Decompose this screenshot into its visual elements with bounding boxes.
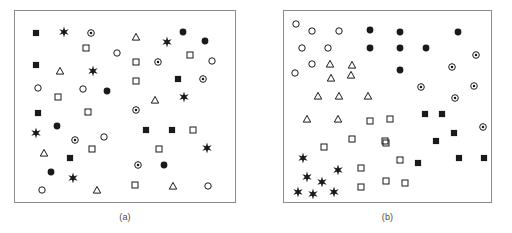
- marker-triangle: [92, 185, 103, 196]
- marker-triangle: [334, 91, 345, 102]
- marker-open-square: [381, 176, 392, 187]
- marker-filled-circle: [200, 36, 211, 47]
- marker-star: [297, 152, 310, 165]
- marker-star: [87, 65, 100, 78]
- marker-open-square: [154, 144, 165, 155]
- marker-filled-circle: [421, 43, 432, 54]
- marker-open-circle: [203, 181, 214, 192]
- marker-filled-square: [479, 153, 490, 164]
- marker-filled-square: [454, 153, 465, 164]
- marker-filled-circle: [395, 65, 406, 76]
- marker-filled-square: [420, 109, 431, 120]
- marker-filled-square: [449, 128, 460, 139]
- panel-caption-b: (b): [283, 212, 492, 222]
- marker-triangle: [333, 114, 344, 125]
- marker-open-square: [395, 155, 406, 166]
- marker-star: [161, 36, 174, 49]
- marker-circled-dot: [86, 28, 97, 39]
- marker-open-square: [87, 144, 98, 155]
- marker-circled-dot: [450, 93, 461, 104]
- marker-open-square: [385, 114, 396, 125]
- marker-circled-dot: [447, 62, 458, 73]
- marker-filled-square: [437, 109, 448, 120]
- marker-filled-square: [31, 60, 42, 71]
- marker-filled-square: [173, 74, 184, 85]
- marker-open-square: [81, 43, 92, 54]
- marker-star: [292, 186, 305, 199]
- marker-open-circle: [307, 26, 318, 37]
- marker-open-square: [356, 182, 367, 193]
- marker-open-square: [83, 107, 94, 118]
- marker-filled-circle: [395, 27, 406, 38]
- marker-filled-circle: [365, 43, 376, 54]
- marker-circled-dot: [131, 105, 142, 116]
- marker-open-circle: [37, 185, 48, 196]
- panel-b: [283, 10, 492, 203]
- marker-filled-square: [413, 158, 424, 169]
- marker-open-square: [356, 163, 367, 174]
- marker-open-circle: [307, 59, 318, 70]
- marker-circled-dot: [471, 50, 482, 61]
- marker-triangle: [326, 73, 337, 84]
- marker-circled-dot: [198, 74, 209, 85]
- marker-open-square: [130, 180, 141, 191]
- marker-star: [67, 172, 80, 185]
- marker-open-circle: [207, 56, 218, 67]
- marker-star: [332, 164, 345, 177]
- marker-open-square: [400, 178, 411, 189]
- marker-star: [58, 26, 71, 39]
- plot-area-b: [283, 10, 492, 203]
- marker-filled-square: [31, 28, 42, 39]
- marker-open-circle: [290, 68, 301, 79]
- marker-triangle: [55, 66, 66, 77]
- marker-filled-square: [65, 153, 76, 164]
- marker-triangle: [363, 91, 374, 102]
- marker-circled-dot: [133, 160, 144, 171]
- marker-open-circle: [297, 43, 308, 54]
- marker-triangle: [168, 181, 179, 192]
- marker-circled-dot: [478, 122, 489, 133]
- marker-filled-square: [33, 108, 44, 119]
- marker-star: [30, 127, 43, 140]
- marker-open-circle: [323, 43, 334, 54]
- marker-circled-dot: [70, 135, 81, 146]
- marker-circled-dot: [469, 81, 480, 92]
- marker-open-square: [319, 142, 330, 153]
- marker-filled-circle: [46, 167, 57, 178]
- marker-circled-dot: [153, 57, 164, 68]
- marker-triangle: [302, 114, 313, 125]
- marker-triangle: [325, 59, 336, 70]
- marker-open-square: [131, 57, 142, 68]
- marker-filled-square: [167, 125, 178, 136]
- marker-open-square: [185, 50, 196, 61]
- marker-star: [307, 188, 320, 201]
- marker-open-circle: [33, 83, 44, 94]
- marker-triangle: [150, 95, 161, 106]
- marker-open-square: [131, 76, 142, 87]
- marker-filled-square: [431, 136, 442, 147]
- marker-star: [301, 171, 314, 184]
- marker-open-square: [53, 92, 64, 103]
- marker-filled-circle: [52, 121, 63, 132]
- marker-filled-circle: [102, 86, 113, 97]
- marker-star: [201, 142, 214, 155]
- marker-filled-circle: [453, 27, 464, 38]
- marker-filled-circle: [159, 160, 170, 171]
- marker-triangle: [346, 70, 357, 81]
- plot-area-a: [14, 10, 236, 203]
- marker-circled-dot: [416, 82, 427, 93]
- marker-open-square: [188, 125, 199, 136]
- marker-star: [178, 91, 191, 104]
- marker-open-circle: [78, 84, 89, 95]
- panel-caption-a: (a): [14, 212, 236, 222]
- marker-open-square: [365, 116, 376, 127]
- marker-open-square: [381, 138, 392, 149]
- figure-scatter-symbol-clustering: (a)(b): [0, 0, 512, 233]
- marker-triangle: [39, 148, 50, 159]
- marker-filled-square: [141, 125, 152, 136]
- marker-triangle: [131, 32, 142, 43]
- marker-filled-circle: [178, 27, 189, 38]
- marker-open-circle: [291, 19, 302, 30]
- marker-open-square: [347, 134, 358, 145]
- marker-filled-circle: [395, 43, 406, 54]
